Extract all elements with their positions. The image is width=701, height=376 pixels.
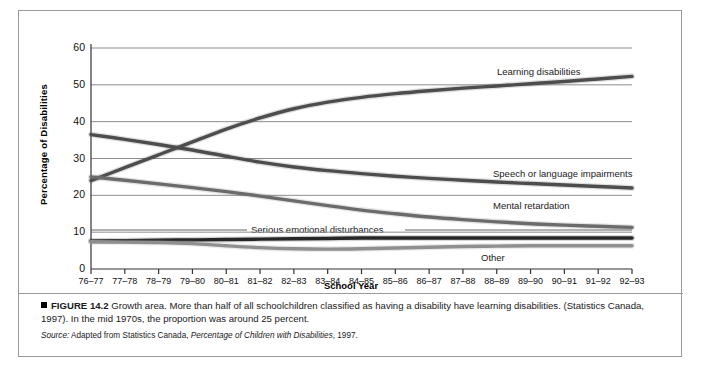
series-paths [91,76,632,249]
series-halo [91,135,632,188]
gridlines [91,48,632,232]
source-line: Source: Adapted from Statistics Canada, … [41,331,661,341]
figure-frame: Percentage of Disabilities School Year 0… [18,10,682,357]
caption-divider [19,293,683,294]
caption-block: FIGURE 14.2 Growth area. More than half … [19,293,683,357]
figure-number: FIGURE 14.2 [51,300,109,311]
source-text: Adapted from Statistics Canada, [69,331,191,340]
plot-svg [19,11,683,293]
x-tick-marks [91,269,632,274]
series-line [91,76,632,180]
chart-area: Percentage of Disabilities School Year 0… [19,11,683,293]
series-line [91,135,632,188]
figure-caption: FIGURE 14.2 Growth area. More than half … [41,299,661,326]
caption-lead-text: Growth area. [111,300,166,311]
source-prefix: Source: [41,331,69,340]
bullet-icon [41,302,47,308]
series-halo [91,76,632,180]
source-year: , 1997. [333,331,358,340]
source-title: Percentage of Children with Disabilities [191,331,333,340]
